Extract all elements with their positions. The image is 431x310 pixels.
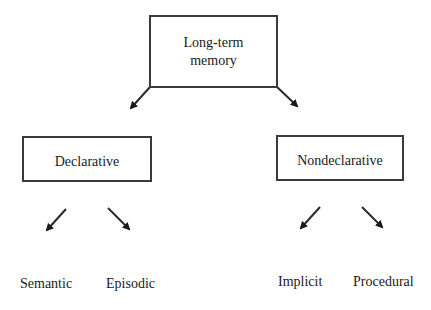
leaf-semantic: Semantic xyxy=(20,276,72,292)
arrow-nondeclarative-to-procedural xyxy=(362,207,382,227)
leaf-episodic: Episodic xyxy=(106,276,155,292)
node-nondeclarative-label: Nondeclarative xyxy=(297,152,383,170)
arrow-declarative-to-semantic xyxy=(47,209,66,230)
leaf-procedural: Procedural xyxy=(353,274,414,290)
node-declarative-label: Declarative xyxy=(55,153,120,171)
arrow-nondeclarative-to-implicit xyxy=(301,207,320,228)
root-node-label: Long-term memory xyxy=(184,34,244,70)
leaf-implicit: Implicit xyxy=(278,274,322,290)
arrow-root-to-declarative xyxy=(131,87,150,108)
node-declarative: Declarative xyxy=(22,136,152,182)
root-node-long-term-memory: Long-term memory xyxy=(149,15,278,88)
arrow-root-to-nondeclarative xyxy=(277,87,297,106)
node-nondeclarative: Nondeclarative xyxy=(276,135,404,181)
arrow-declarative-to-episodic xyxy=(108,208,129,229)
